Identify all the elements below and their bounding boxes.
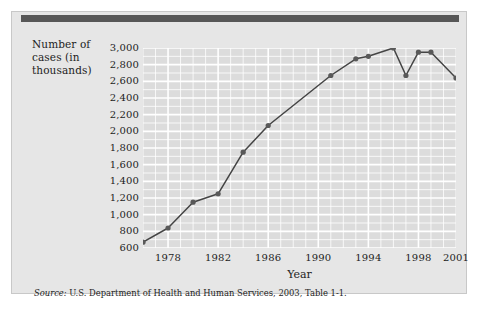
data-point-marker [216,191,221,196]
x-axis-tick-label: 1990 [296,252,340,264]
data-point-marker [328,73,333,78]
data-point-marker [416,50,421,55]
decorative-header-bar [21,15,459,22]
plot-area [143,48,456,248]
y-axis-tick-labels: 3,0002,8002,6002,4002,2002,0001,8001,600… [95,48,139,248]
x-axis-tick-label: 1994 [346,252,390,264]
data-point-marker [353,56,358,61]
y-axis-tick-label: 1,400 [97,176,139,186]
data-point-marker [266,123,271,128]
data-series-line [143,48,456,242]
y-axis-tick-label: 2,600 [97,76,139,86]
x-axis-tick-label: 1978 [146,252,190,264]
y-axis-tick-label: 2,000 [97,126,139,136]
data-point-marker [241,150,246,155]
plot-area-wrapper [143,48,456,248]
y-axis-tick-label: 3,000 [97,43,139,53]
y-axis-tick-label: 600 [97,243,139,253]
x-axis-title: Year [143,268,456,281]
data-point-marker [428,50,433,55]
x-axis-tick-label: 1986 [246,252,290,264]
source-note-label: Source: [34,288,67,298]
y-axis-tick-label: 1,200 [97,193,139,203]
data-point-marker [190,200,195,205]
data-point-marker [403,73,408,78]
x-axis-tick-label: 1982 [196,252,240,264]
y-axis-tick-label: 1,800 [97,143,139,153]
major-gridlines [143,48,456,248]
y-axis-tick-label: 2,400 [97,93,139,103]
y-axis-tick-label: 800 [97,226,139,236]
y-axis-tick-label: 2,200 [97,110,139,120]
y-axis-tick-label: 2,800 [97,60,139,70]
data-point-marker [366,54,371,59]
y-axis-tick-label: 1,000 [97,210,139,220]
line-chart-svg [143,48,456,248]
x-axis-tick-labels: 1978198219861990199419982001 [143,252,456,266]
x-axis-tick-label: 2001 [434,252,478,264]
chart-figure-panel: Number of cases (in thousands) 3,0002,80… [11,11,467,294]
source-note: Source: U.S. Department of Health and Hu… [34,288,347,298]
source-note-text: U.S. Department of Health and Human Serv… [67,288,347,298]
y-axis-tick-label: 1,600 [97,160,139,170]
data-point-marker [165,225,170,230]
